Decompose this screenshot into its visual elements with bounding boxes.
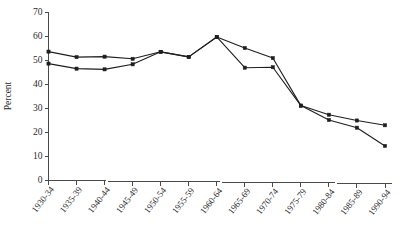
data-point-marker bbox=[159, 50, 162, 53]
y-tick-label: 20 bbox=[33, 127, 43, 137]
data-point-marker bbox=[355, 119, 358, 122]
data-point-marker bbox=[383, 144, 386, 147]
series-line bbox=[49, 37, 386, 125]
data-point-marker bbox=[103, 55, 106, 58]
data-point-marker bbox=[243, 66, 246, 69]
y-tick-group: 010203040506070 bbox=[33, 7, 49, 185]
x-tick-label: 1985-89 bbox=[338, 187, 365, 217]
x-tick-label: 1935-39 bbox=[58, 184, 85, 214]
y-tick-label: 30 bbox=[33, 103, 43, 113]
series-line bbox=[49, 37, 386, 146]
x-tick-label: 1945-49 bbox=[114, 185, 141, 215]
y-tick-label: 70 bbox=[33, 7, 43, 17]
data-point-marker bbox=[327, 118, 330, 121]
x-tick-label: 1965-69 bbox=[226, 186, 253, 216]
x-tick-label: 1990-94 bbox=[366, 187, 393, 217]
data-point-marker bbox=[75, 67, 78, 70]
y-tick-label: 40 bbox=[33, 79, 43, 89]
x-axis-group: 1930-341935-391940-441945-491950-541955-… bbox=[30, 181, 393, 218]
data-point-marker bbox=[271, 66, 274, 69]
data-point-marker bbox=[271, 56, 274, 59]
data-point-marker bbox=[47, 50, 50, 53]
y-axis-title: Percent bbox=[3, 81, 13, 110]
data-point-marker bbox=[103, 68, 106, 71]
data-point-marker bbox=[131, 63, 134, 66]
y-axis-group: 010203040506070 Percent bbox=[3, 7, 49, 185]
x-tick-label-group: 1930-341935-391940-441945-491950-541955-… bbox=[30, 184, 393, 217]
data-point-marker bbox=[131, 57, 134, 60]
series-series-upper bbox=[47, 35, 387, 127]
line-chart: 010203040506070 Percent 1930-341935-3919… bbox=[0, 0, 403, 247]
x-tick-label: 1940-44 bbox=[86, 185, 113, 215]
x-tick-label: 1955-59 bbox=[170, 185, 197, 215]
plot-area bbox=[47, 35, 387, 147]
data-point-marker bbox=[47, 62, 50, 65]
data-point-marker bbox=[75, 56, 78, 59]
y-tick-label: 50 bbox=[33, 55, 43, 65]
y-tick-label: 0 bbox=[38, 175, 43, 185]
data-point-marker bbox=[299, 104, 302, 107]
x-tick-label: 1970-74 bbox=[254, 186, 281, 216]
data-point-marker bbox=[243, 46, 246, 49]
y-tick-label: 60 bbox=[33, 31, 43, 41]
x-tick-label: 1950-54 bbox=[142, 185, 169, 215]
x-tick-label: 1975-79 bbox=[282, 186, 309, 216]
data-point-marker bbox=[327, 113, 330, 116]
series-series-lower bbox=[47, 35, 387, 147]
x-tick-label: 1960-64 bbox=[198, 186, 225, 216]
chart-container: 010203040506070 Percent 1930-341935-3919… bbox=[0, 0, 403, 247]
x-tick-label: 1930-34 bbox=[30, 184, 57, 214]
data-point-marker bbox=[187, 55, 190, 58]
data-point-marker bbox=[355, 126, 358, 129]
data-point-marker bbox=[215, 35, 218, 38]
y-tick-label: 10 bbox=[33, 151, 43, 161]
data-point-marker bbox=[383, 124, 386, 127]
x-tick-label: 1980-84 bbox=[310, 187, 337, 217]
x-axis-line bbox=[49, 181, 393, 184]
